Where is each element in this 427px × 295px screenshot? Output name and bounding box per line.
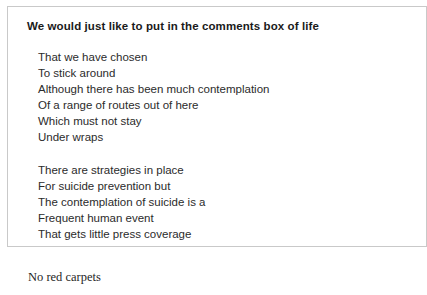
poem-line: There are strategies in place (38, 162, 269, 178)
page-title: We would just like to put in the comment… (27, 20, 319, 32)
poem-line: Although there has been much contemplati… (38, 81, 269, 97)
poem-line: Frequent human event (38, 210, 269, 226)
excerpt-box: We would just like to put in the comment… (7, 6, 427, 247)
trailing-caption: No red carpets (28, 270, 101, 285)
poem-line: Of a range of routes out of here (38, 97, 269, 113)
poem-line: Under wraps (38, 129, 269, 145)
poem-body: That we have chosen To stick around Alth… (38, 49, 269, 242)
poem-line: That we have chosen (38, 49, 269, 65)
poem-line: To stick around (38, 65, 269, 81)
poem-line: The contemplation of suicide is a (38, 194, 269, 210)
stanza-separator (38, 146, 269, 162)
poem-line: Which must not stay (38, 113, 269, 129)
poem-line: For suicide prevention but (38, 178, 269, 194)
stanza-second: There are strategies in place For suicid… (38, 162, 269, 242)
poem-line: That gets little press coverage (38, 226, 269, 242)
stanza-first: That we have chosen To stick around Alth… (38, 49, 269, 146)
